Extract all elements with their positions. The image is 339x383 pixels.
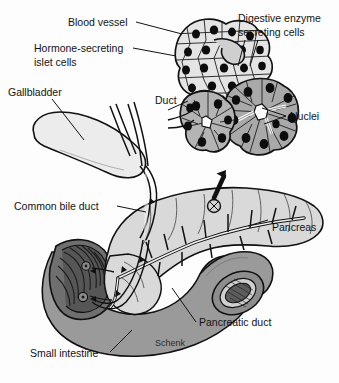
- label-duct: Duct: [155, 94, 177, 106]
- label-pancreas: Pancreas: [272, 221, 316, 233]
- label-digestive-cells-line2: secreting cells: [238, 26, 305, 38]
- pancreas-anatomy-figure: Blood vessel Hormone-secreting islet cel…: [0, 0, 339, 383]
- acinar-lobe-lower: [180, 91, 236, 152]
- label-pancreatic-duct: Pancreatic duct: [199, 316, 271, 328]
- label-common-bile-duct: Common bile duct: [14, 200, 99, 212]
- label-islet-cells-line1: Hormone-secreting: [34, 42, 123, 54]
- illustrator-signature: Schenk: [155, 338, 186, 348]
- label-blood-vessel: Blood vessel: [68, 16, 128, 28]
- label-digestive-cells-line1: Digestive enzyme: [238, 12, 321, 24]
- label-small-intestine: Small intestine: [30, 347, 98, 359]
- label-gallbladder: Gallbladder: [8, 86, 62, 98]
- label-islet-cells-line2: islet cells: [34, 56, 77, 68]
- label-nuclei: Nuclei: [290, 110, 319, 122]
